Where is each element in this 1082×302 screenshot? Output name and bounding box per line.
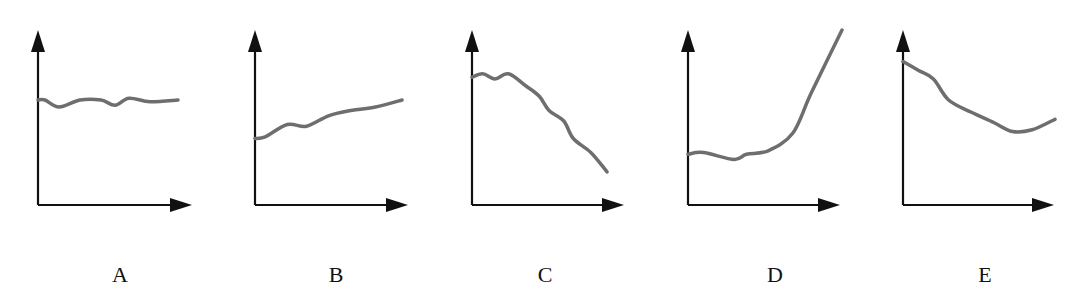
chart-e: E bbox=[896, 30, 1055, 287]
chart-b-curve bbox=[255, 100, 402, 139]
chart-e-curve bbox=[903, 62, 1055, 133]
chart-c-label: C bbox=[538, 262, 553, 287]
chart-c-x-arrow-icon bbox=[602, 198, 624, 212]
chart-e-y-arrow-icon bbox=[896, 30, 910, 52]
chart-c-y-arrow-icon bbox=[465, 30, 479, 52]
chart-c: C bbox=[465, 30, 624, 287]
chart-b-y-arrow-icon bbox=[248, 30, 262, 52]
chart-d: D bbox=[681, 30, 842, 287]
chart-b-x-arrow-icon bbox=[386, 198, 408, 212]
chart-b-label: B bbox=[329, 262, 344, 287]
chart-a-y-arrow-icon bbox=[31, 30, 45, 52]
chart-e-x-arrow-icon bbox=[1032, 198, 1054, 212]
chart-a-x-arrow-icon bbox=[170, 198, 192, 212]
figure: ABCDE bbox=[0, 0, 1082, 302]
chart-a-label: A bbox=[112, 262, 128, 287]
chart-d-label: D bbox=[767, 262, 783, 287]
chart-d-x-arrow-icon bbox=[818, 198, 840, 212]
chart-c-curve bbox=[472, 74, 607, 172]
chart-b: B bbox=[248, 30, 408, 287]
chart-a: A bbox=[31, 30, 192, 287]
chart-d-curve bbox=[688, 30, 842, 160]
chart-d-y-arrow-icon bbox=[681, 30, 695, 52]
chart-e-label: E bbox=[978, 262, 991, 287]
chart-a-curve bbox=[38, 98, 178, 107]
